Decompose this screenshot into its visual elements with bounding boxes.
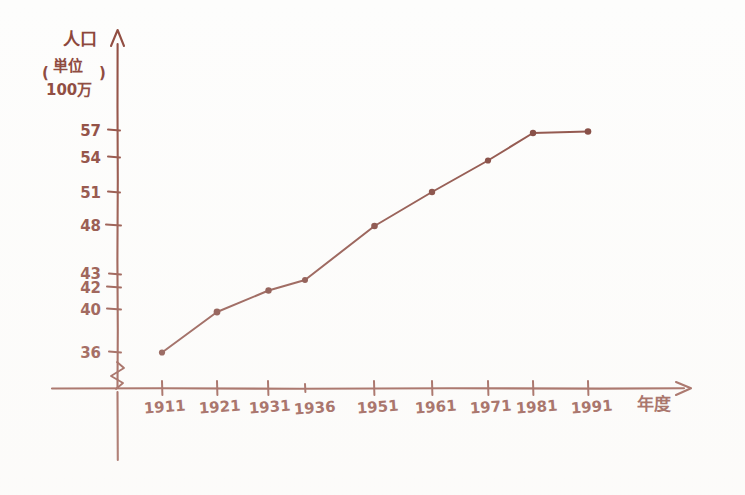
y-unit-close-paren: ): [99, 64, 106, 82]
y-tick-label-51: 51: [80, 184, 101, 202]
y-tick-label-48: 48: [80, 217, 101, 235]
x-axis-title: 年度: [637, 394, 672, 414]
x-tick-label-1936: 1936: [293, 398, 336, 419]
data-point-1971: [485, 157, 491, 163]
data-point-1981: [530, 130, 536, 136]
population-series: [159, 128, 591, 355]
x-tick-label-1921: 1921: [198, 397, 241, 418]
x-axis-group: [52, 382, 691, 395]
data-point-1936: [302, 277, 308, 283]
y-tick-labels-group: 57 54 51 48 43 42 40 36: [80, 122, 101, 362]
x-tick-label-1961: 1961: [414, 397, 457, 418]
data-point-1921: [214, 309, 221, 316]
x-tick-label-1991: 1991: [570, 397, 613, 418]
y-tick-42: [107, 287, 121, 288]
y-tick-43: [109, 274, 121, 275]
y-tick-57: [108, 130, 120, 131]
x-tick-label-1911: 1911: [143, 397, 186, 418]
data-point-1961: [429, 189, 435, 195]
y-tick-label-40: 40: [80, 301, 101, 319]
y-unit-line-1: 単位: [53, 57, 83, 75]
data-point-1991: [585, 128, 592, 135]
y-tick-label-36: 36: [80, 344, 101, 362]
y-unit-line-2: 100万: [46, 81, 92, 99]
y-tick-54: [108, 157, 120, 158]
y-tick-label-54: 54: [80, 149, 101, 167]
data-point-1951: [371, 223, 378, 230]
y-tick-label-57: 57: [80, 122, 101, 140]
y-unit-open-paren: (: [42, 64, 49, 82]
x-tick-labels-group: 1911 1921 1931 1936 1951 1961 1971 1981 …: [143, 397, 613, 419]
y-tick-36: [109, 352, 121, 353]
y-axis-group: [111, 30, 124, 460]
y-axis-title: 人口: [63, 29, 97, 49]
data-point-1931: [265, 287, 271, 293]
y-tick-48: [106, 225, 121, 226]
x-tick-label-1981: 1981: [515, 397, 558, 418]
x-tick-label-1951: 1951: [356, 397, 399, 418]
data-point-1911: [159, 349, 165, 355]
chart-figure: 57 54 51 48 43 42 40 36 人口 ( 単位 100万 ): [0, 0, 745, 495]
y-tick-51: [108, 192, 120, 193]
x-tick-label-1971: 1971: [469, 397, 512, 418]
line-chart-canvas: 57 54 51 48 43 42 40 36 人口 ( 単位 100万 ): [0, 0, 745, 495]
y-tick-label-42: 42: [80, 279, 101, 297]
y-axis-title-group: 人口 ( 単位 100万 ): [42, 29, 106, 99]
x-tick-label-1931: 1931: [248, 397, 291, 418]
y-tick-40: [107, 309, 121, 310]
series-line-population: [162, 132, 588, 353]
